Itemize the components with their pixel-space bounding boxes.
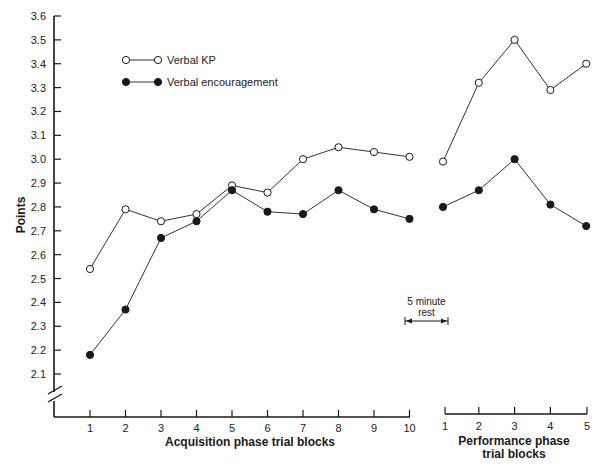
annotation-label-line1: 5 minute [407, 296, 446, 307]
arrow-left-icon [406, 319, 412, 324]
y-tick-label: 2.2 [31, 344, 46, 356]
y-tick-label: 2.4 [31, 296, 46, 308]
open-circle-marker [406, 153, 413, 160]
series-line-verbal-encouragement [90, 190, 410, 355]
arrow-right-icon [441, 319, 447, 324]
open-circle-marker [439, 158, 446, 165]
y-tick-label: 2.9 [31, 177, 46, 189]
x-tick-label: 2 [476, 420, 482, 432]
open-circle-marker [299, 156, 306, 163]
y-tick-label: 2.3 [31, 320, 46, 332]
x-axis-title-performance-line2: trial blocks [482, 447, 546, 461]
x-tick-label: 4 [547, 420, 553, 432]
legend-label-verbal-encouragement: Verbal encouragement [167, 76, 278, 88]
x-tick-label: 3 [158, 422, 164, 434]
y-tick-label: 2.7 [31, 225, 46, 237]
filled-circle-marker-icon [122, 78, 129, 85]
x-axis-title-acquisition: Acquisition phase trial blocks [165, 435, 335, 449]
filled-circle-marker [86, 351, 93, 358]
filled-circle-marker [335, 187, 342, 194]
open-circle-marker [264, 189, 271, 196]
open-circle-marker [475, 79, 482, 86]
open-circle-marker [547, 86, 554, 93]
filled-circle-marker [370, 206, 377, 213]
y-tick-label: 3.1 [31, 129, 46, 141]
y-tick-label: 2.8 [31, 201, 46, 213]
open-circle-marker [583, 60, 590, 67]
y-tick-label: 2.6 [31, 249, 46, 261]
x-axis-acquisition: 12345678910 [54, 410, 416, 434]
filled-circle-marker [583, 222, 590, 229]
filled-circle-marker [547, 201, 554, 208]
open-circle-marker [86, 265, 93, 272]
open-circle-marker [335, 144, 342, 151]
x-tick-label: 1 [87, 422, 93, 434]
x-tick-label: 9 [371, 422, 377, 434]
series-line-verbal-kp [443, 40, 586, 162]
x-tick-label: 6 [264, 422, 270, 434]
filled-circle-marker [157, 234, 164, 241]
x-axis-title-performance-line1: Performance phase [458, 434, 570, 448]
filled-circle-marker [406, 215, 413, 222]
filled-circle-marker [193, 218, 200, 225]
legend-label-verbal-kp: Verbal KP [167, 54, 216, 66]
axis-break-mark [48, 386, 62, 394]
y-axis-title: Points [14, 196, 28, 233]
x-tick-label: 10 [403, 422, 415, 434]
y-tick-label: 3.3 [31, 82, 46, 94]
line-chart: 3.63.53.43.33.23.13.02.92.82.72.62.52.42… [0, 0, 607, 466]
y-tick-label: 3.4 [31, 58, 46, 70]
x-tick-label: 8 [335, 422, 341, 434]
series-line-verbal-kp [90, 147, 410, 269]
y-tick-label: 3.5 [31, 34, 46, 46]
filled-circle-marker [439, 203, 446, 210]
x-tick-label: 7 [300, 422, 306, 434]
open-circle-marker [370, 148, 377, 155]
filled-circle-marker [264, 208, 271, 215]
x-tick-label: 3 [512, 420, 518, 432]
open-circle-marker-icon [122, 56, 129, 63]
open-circle-marker [193, 210, 200, 217]
x-tick-label: 5 [229, 422, 235, 434]
filled-circle-marker [475, 187, 482, 194]
filled-circle-marker [299, 210, 306, 217]
series-line-verbal-encouragement [443, 159, 586, 226]
annotation-label-line2: rest [418, 307, 435, 318]
y-tick-label: 2.1 [31, 368, 46, 380]
legend: Verbal KPVerbal encouragement [122, 54, 277, 88]
axis-break-mark [48, 394, 62, 402]
x-tick-label: 5 [584, 420, 590, 432]
filled-circle-marker [511, 156, 518, 163]
plot-area [86, 36, 589, 358]
x-axis-performance: 12345 [442, 407, 590, 432]
rest-annotation: 5 minuterest [405, 296, 448, 325]
figure-caption-clipped [40, 461, 600, 466]
open-circle-marker [157, 218, 164, 225]
open-circle-marker-icon [154, 56, 161, 63]
y-axis: 3.63.53.43.33.23.13.02.92.82.72.62.52.42… [31, 10, 62, 417]
x-tick-label: 2 [122, 422, 128, 434]
x-tick-label: 4 [193, 422, 199, 434]
y-tick-label: 3.6 [31, 10, 46, 22]
y-tick-label: 3.0 [31, 153, 46, 165]
filled-circle-marker [122, 306, 129, 313]
filled-circle-marker [228, 187, 235, 194]
x-tick-label: 1 [442, 420, 448, 432]
filled-circle-marker-icon [154, 78, 161, 85]
y-tick-label: 3.2 [31, 105, 46, 117]
y-tick-label: 2.5 [31, 273, 46, 285]
open-circle-marker [122, 206, 129, 213]
open-circle-marker [511, 36, 518, 43]
